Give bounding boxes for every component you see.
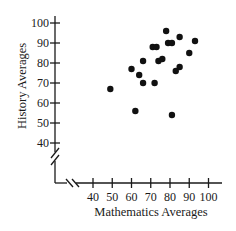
scatter-chart: 405060708090100 405060708090100 Mathemat…	[0, 0, 236, 231]
data-point	[107, 86, 113, 92]
data-point	[151, 80, 157, 86]
data-point	[140, 58, 146, 64]
y-tick-label: 90	[37, 36, 49, 50]
data-point	[173, 68, 179, 74]
data-point	[136, 72, 142, 78]
data-points	[107, 28, 198, 118]
x-tick-label: 70	[145, 190, 157, 204]
y-tick-label: 70	[37, 76, 49, 90]
x-tick-label: 80	[164, 190, 176, 204]
data-point	[140, 80, 146, 86]
data-point	[128, 66, 134, 72]
data-point	[159, 56, 165, 62]
x-tick-label: 50	[106, 190, 118, 204]
x-axis-break-mark	[66, 179, 73, 187]
y-axis-label: History Averages	[15, 43, 29, 129]
x-tick-label: 100	[200, 190, 218, 204]
data-point	[176, 34, 182, 40]
data-point	[169, 40, 175, 46]
x-ticks: 405060708090100	[87, 178, 218, 204]
y-ticks: 405060708090100	[31, 16, 60, 150]
x-axis-label: Mathematics Averages	[94, 205, 207, 219]
data-point	[153, 44, 159, 50]
x-tick-label: 60	[126, 190, 138, 204]
y-tick-label: 50	[37, 116, 49, 130]
data-point	[163, 28, 169, 34]
x-tick-label: 90	[183, 190, 195, 204]
y-tick-label: 60	[37, 96, 49, 110]
data-point	[132, 108, 138, 114]
data-point	[192, 38, 198, 44]
data-point	[186, 50, 192, 56]
data-point	[169, 112, 175, 118]
x-tick-label: 40	[87, 190, 99, 204]
y-tick-label: 80	[37, 56, 49, 70]
y-tick-label: 100	[31, 16, 49, 30]
y-tick-label: 40	[37, 136, 49, 150]
